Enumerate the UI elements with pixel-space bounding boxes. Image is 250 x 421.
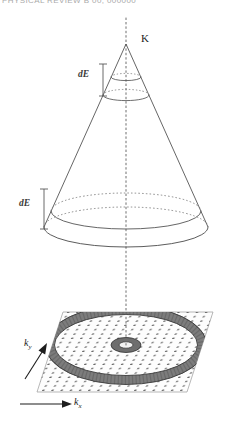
cone-apex-label-K: K xyxy=(141,32,149,44)
ky-axis-subscript: y xyxy=(28,343,31,351)
ky-axis-label: ky xyxy=(24,337,32,351)
kx-axis-label: kx xyxy=(74,396,82,410)
kx-axis-subscript: x xyxy=(78,402,81,410)
lower-dE-measure-bar xyxy=(40,189,48,229)
figure-root: PHYSICAL REVIEW B 00, 000000 xyxy=(0,0,250,421)
dirac-cone-figure xyxy=(0,0,250,421)
lower-energy-window-label: dE xyxy=(19,198,30,208)
kx-axis-arrowhead xyxy=(62,400,72,408)
ky-axis-line xyxy=(25,349,44,379)
upper-dE-measure-bar xyxy=(99,64,107,96)
cone-right-edge xyxy=(126,44,208,227)
upper-energy-window-label: dE xyxy=(78,69,89,79)
ky-axis-arrowhead xyxy=(39,343,48,355)
